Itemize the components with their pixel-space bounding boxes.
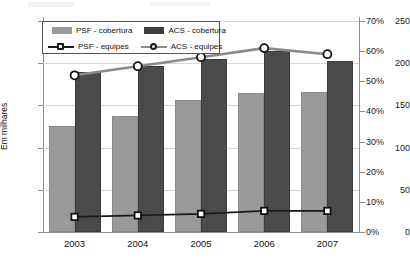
legend-item-acs-cobertura: ACS - cobertura xyxy=(144,26,225,35)
data-point-marker xyxy=(324,208,330,214)
data-point-marker xyxy=(71,214,77,220)
legend-item-acs-equipes: ACS - equipes xyxy=(141,42,223,51)
legend-label: ACS - cobertura xyxy=(168,26,225,35)
x-axis-label-2003: 2003 xyxy=(43,238,106,249)
x-axis-label-2005: 2005 xyxy=(169,238,232,249)
legend-label: ACS - equipes xyxy=(171,42,223,51)
x-axis-label-2006: 2006 xyxy=(233,238,296,249)
data-point-marker xyxy=(197,53,205,61)
legend-swatch-icon xyxy=(52,27,72,34)
legend-item-psf-equipes: PSF - equipes xyxy=(48,42,129,51)
x-axis-label-2007: 2007 xyxy=(296,238,359,249)
data-point-marker xyxy=(135,212,141,218)
chart-container: 050100150200250 0%10%20%30%40%50%60%70% … xyxy=(0,0,410,267)
data-point-marker xyxy=(198,211,204,217)
legend-label: PSF - cobertura xyxy=(76,26,132,35)
x-axis-label-2004: 2004 xyxy=(106,238,169,249)
legend-swatch-icon xyxy=(144,27,164,34)
chart-legend: PSF - cobertura ACS - cobertura PSF - eq… xyxy=(42,21,220,54)
data-point-marker xyxy=(71,71,79,79)
data-point-marker xyxy=(261,208,267,214)
legend-line-marker-icon xyxy=(141,42,167,51)
data-point-marker xyxy=(134,62,142,70)
data-point-marker xyxy=(323,50,331,58)
legend-label: PSF - equipes xyxy=(78,42,129,51)
data-point-marker xyxy=(260,44,268,52)
legend-item-psf-cobertura: PSF - cobertura xyxy=(52,26,132,35)
legend-line-marker-icon xyxy=(48,42,74,51)
